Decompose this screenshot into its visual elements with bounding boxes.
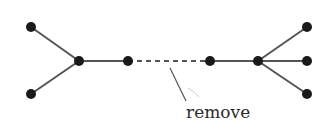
node-hub-right [253, 56, 263, 66]
node-leaf-bottom-right [302, 89, 312, 99]
node-mid-right [205, 56, 215, 66]
annotation-leader-line [170, 68, 186, 101]
edge-leaf-bottom-right [258, 61, 307, 94]
node-hub-left [74, 56, 84, 66]
node-leaf-bottom-left [26, 89, 36, 99]
annotation-hint-mark [188, 88, 199, 97]
node-mid-left [123, 56, 133, 66]
edge-leaf-top-right [258, 27, 307, 61]
node-leaf-top-right [302, 22, 312, 32]
tree-diagram: remove [0, 0, 321, 130]
edges [31, 27, 307, 94]
annotation-label-remove: remove [186, 102, 250, 122]
node-leaf-mid-right [302, 56, 312, 66]
node-leaf-top-left [26, 22, 36, 32]
edge-leaf-top-left [31, 27, 79, 61]
edge-leaf-bottom-left [31, 61, 79, 94]
